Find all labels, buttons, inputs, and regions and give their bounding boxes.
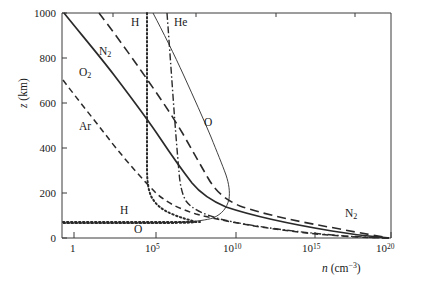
curve-label-h-top: H [131, 17, 139, 29]
curve-he [167, 13, 389, 238]
curve-label-n2-upper: N2 [99, 46, 111, 59]
curve-n2 [99, 13, 389, 238]
y-tick-label-600: 600 [28, 98, 56, 109]
x-tick-label-1e10: 1010 [223, 243, 241, 254]
plot-canvas [0, 0, 423, 286]
curve-label-o-right: O [204, 117, 212, 129]
curve-ar [63, 80, 389, 238]
curve-label-ar: Ar [79, 121, 91, 133]
x-tick-label-1e5: 105 [145, 243, 160, 254]
y-tick-label-0: 0 [36, 233, 56, 244]
x-tick-label-1e20: 1020 [376, 243, 394, 254]
curve-label-h-lower: H [120, 205, 128, 217]
figure-atmospheric-number-density: 0 200 400 600 800 1000 1 105 1010 1015 1… [0, 0, 423, 286]
y-axis-title: z (km) [18, 78, 30, 108]
curve-label-o-lower: O [134, 224, 142, 236]
curve-label-n2-right: N2 [345, 208, 357, 221]
curve-label-o2: O2 [79, 67, 91, 80]
y-tick-label-200: 200 [28, 188, 56, 199]
y-tick-label-800: 800 [28, 53, 56, 64]
curve-o2 [64, 13, 389, 238]
y-tick-label-400: 400 [28, 143, 56, 154]
y-tick-label-1000: 1000 [22, 8, 56, 19]
axis-frame [62, 13, 391, 238]
x-axis-title: n (cm−3) [322, 262, 361, 274]
x-tick-label-1: 1 [70, 243, 76, 254]
curve-label-he: He [174, 17, 187, 29]
top-edge-ticks [113, 13, 355, 17]
curve-h [63, 13, 196, 223]
y-tick-marks [62, 13, 67, 238]
x-tick-label-1e15: 1015 [302, 243, 320, 254]
